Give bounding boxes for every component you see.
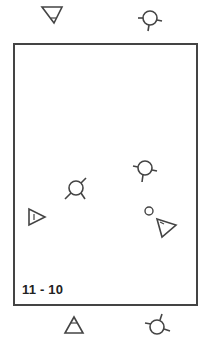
- triangle-right-icon: [26, 206, 48, 228]
- triangle-down-icon: [40, 4, 64, 26]
- court-boundary: [13, 43, 198, 306]
- circle-with-ticks-icon: [135, 5, 165, 33]
- score-label: 11 - 10: [22, 282, 63, 297]
- triangle-down-left-icon: [155, 216, 179, 240]
- formation-diagram: 11 - 10: [0, 0, 206, 340]
- small-circle-icon: [143, 205, 155, 217]
- triangle-up-icon: [63, 315, 85, 335]
- circle-with-ticks-icon: [61, 174, 91, 204]
- circle-with-ticks-icon: [142, 310, 174, 340]
- circle-with-ticks-icon: [130, 155, 160, 185]
